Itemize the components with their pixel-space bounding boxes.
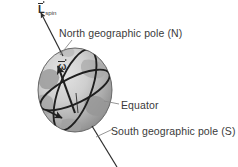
vector-symbol-omega: ω xyxy=(58,62,67,72)
earth-globe-illustration xyxy=(0,0,238,167)
equator-label: Equator xyxy=(121,100,158,111)
symbol-L: L xyxy=(38,3,45,15)
figure-canvas: Lspin ω North geographic pole (N) Equato… xyxy=(0,0,238,167)
angular-velocity-label: ω xyxy=(58,62,67,72)
north-pole-label: North geographic pole (N) xyxy=(59,28,182,39)
spin-vector-label: Lspin xyxy=(38,4,56,15)
subscript-spin: spin xyxy=(45,9,56,16)
vector-symbol-L: L xyxy=(38,4,45,15)
south-pole-label: South geographic pole (S) xyxy=(111,126,236,137)
symbol-omega: ω xyxy=(58,61,67,72)
